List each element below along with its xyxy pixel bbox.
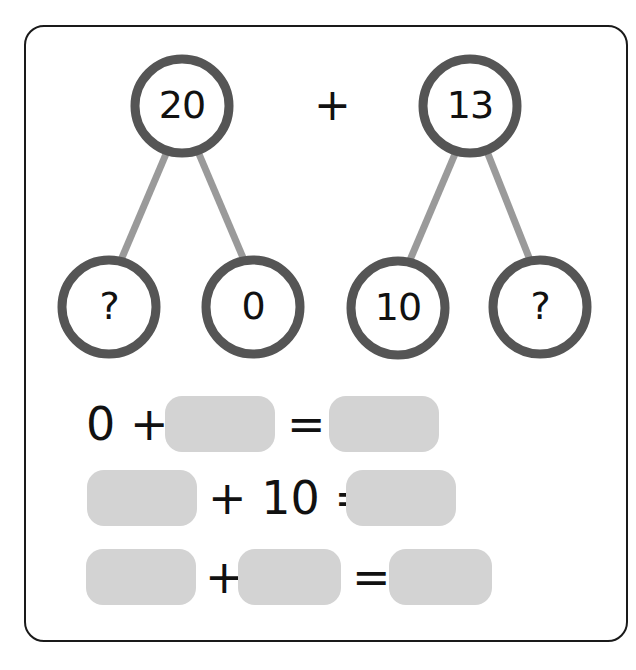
part-value: 0 — [208, 281, 298, 331]
branch-line — [410, 154, 455, 260]
answer-blank[interactable] — [329, 396, 439, 452]
answer-blank[interactable] — [86, 549, 196, 605]
equation-1-prefix: 0 + — [86, 396, 168, 452]
answer-blank[interactable] — [87, 470, 197, 526]
answer-blank[interactable] — [165, 396, 275, 452]
part-value: 10 — [353, 282, 443, 332]
equation-3-equals: = — [352, 549, 391, 605]
top-plus-sign: + — [314, 80, 351, 130]
branch-line — [199, 154, 244, 260]
whole-value-left: 20 — [137, 80, 227, 130]
answer-blank[interactable] — [238, 549, 341, 605]
answer-blank[interactable] — [346, 470, 456, 526]
part-value-unknown: ? — [64, 281, 154, 331]
part-value-unknown: ? — [495, 281, 585, 331]
whole-value-right: 13 — [425, 80, 515, 130]
branch-line — [121, 154, 166, 260]
equation-1-equals: = — [287, 396, 326, 452]
answer-blank[interactable] — [389, 549, 492, 605]
branch-line — [488, 154, 530, 260]
